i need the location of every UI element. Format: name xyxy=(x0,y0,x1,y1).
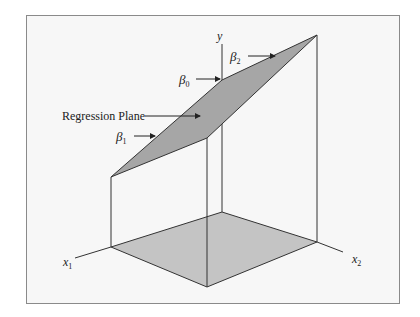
x1-axis xyxy=(75,247,111,258)
base-plane xyxy=(111,212,317,287)
beta1-label: β1 xyxy=(116,130,126,146)
x1-axis-label: x1 xyxy=(63,256,72,271)
regression-plane-label: Regression Plane xyxy=(62,110,145,122)
beta2-label: β2 xyxy=(230,50,240,66)
beta0-label: β0 xyxy=(179,73,189,89)
x2-axis-label: x2 xyxy=(352,253,361,268)
regression-plane xyxy=(111,35,317,177)
y-axis-label: y xyxy=(217,30,222,42)
x2-axis xyxy=(317,242,343,252)
